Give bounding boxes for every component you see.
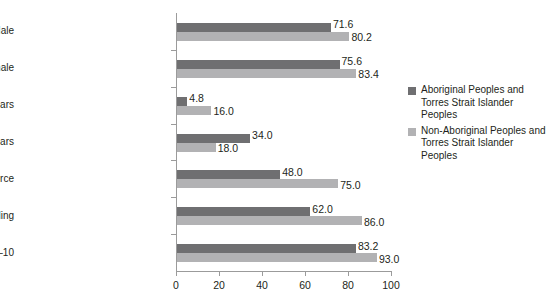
bar-value-label: 71.6 <box>333 19 353 29</box>
bar-series-1 <box>177 32 349 41</box>
x-axis-tick <box>391 271 392 276</box>
x-axis-tick-label: 60 <box>299 279 311 291</box>
x-axis-tick-label: 100 <box>382 279 400 291</box>
bar-value-label: 18.0 <box>218 143 238 153</box>
y-axis-tick <box>171 87 176 88</box>
legend-label-series-0-line-1: Aboriginal Peoples and <box>421 84 558 97</box>
x-axis-tick <box>176 271 177 276</box>
bar-value-label: 16.0 <box>213 106 233 116</box>
x-axis-tick <box>305 271 306 276</box>
y-axis-tick <box>171 124 176 125</box>
category-label: Life expectancy (years) – Female <box>0 62 14 73</box>
category-label: % school attendance Years 1–10 <box>0 247 14 258</box>
legend-label-series-0-line-3: Peoples <box>421 109 558 122</box>
bar-series-0 <box>177 244 356 253</box>
bar-value-label: 48.0 <box>282 167 302 177</box>
category-label: % aged 15–64 years in workforce <box>0 173 14 184</box>
legend-swatch-icon-series-1 <box>408 128 416 136</box>
bar-value-label: 62.0 <box>312 204 332 214</box>
bar-value-label: 86.0 <box>364 217 384 227</box>
bar-value-label: 75.0 <box>340 180 360 190</box>
category-label: % aged under 15 years <box>0 136 14 147</box>
legend-swatch-icon-series-0 <box>408 87 416 95</box>
legend-label-series-1: Non-Aboriginal Peoples and Torres Strait… <box>421 125 558 163</box>
x-axis-tick-label: 40 <box>256 279 268 291</box>
bar-series-1 <box>177 216 362 225</box>
category-label: Life expectancy (years) – Male <box>0 25 14 36</box>
bar-series-0 <box>177 207 310 216</box>
bar-series-1 <box>177 253 377 262</box>
y-axis-tick <box>171 197 176 198</box>
bar-value-label: 83.4 <box>358 69 378 79</box>
bar-value-label: 83.2 <box>358 241 378 251</box>
bar-value-label: 34.0 <box>252 130 272 140</box>
chart-legend: Aboriginal Peoples and Torres Strait Isl… <box>408 84 558 165</box>
bar-value-label: 75.6 <box>342 56 362 66</box>
y-axis-tick <box>171 160 176 161</box>
x-axis-tick-label: 80 <box>342 279 354 291</box>
chart-page: 020406080100 Life expectancy (years) – M… <box>0 0 558 300</box>
bar-series-0 <box>177 97 187 106</box>
bar-series-1 <box>177 179 338 188</box>
y-axis-tick <box>171 50 176 51</box>
x-axis-tick <box>262 271 263 276</box>
legend-label-series-0-line-2: Torres Strait Islander <box>421 97 558 110</box>
x-axis-tick <box>348 271 349 276</box>
bar-value-label: 80.2 <box>351 32 371 42</box>
x-axis-tick-label: 0 <box>173 279 179 291</box>
legend-label-series-1-line-3: Peoples <box>421 150 558 163</box>
plot-area: 020406080100 Life expectancy (years) – M… <box>0 0 400 300</box>
x-axis-line <box>176 271 392 272</box>
x-axis-tick <box>219 271 220 276</box>
legend-item-non-aboriginal: Non-Aboriginal Peoples and Torres Strait… <box>408 125 558 163</box>
bar-series-1 <box>177 143 216 152</box>
bar-series-1 <box>177 106 211 115</box>
y-axis-tick <box>171 234 176 235</box>
category-label: % aged 65+ years <box>0 99 14 110</box>
bar-value-label: 93.0 <box>379 254 399 264</box>
bar-series-0 <box>177 23 331 32</box>
category-label: % finishing Year 12 schooling <box>0 210 14 221</box>
bar-series-0 <box>177 60 340 69</box>
legend-label-series-0: Aboriginal Peoples and Torres Strait Isl… <box>421 84 558 122</box>
bar-series-0 <box>177 170 280 179</box>
bar-value-label: 4.8 <box>189 93 204 103</box>
x-axis-tick-label: 20 <box>213 279 225 291</box>
legend-item-aboriginal: Aboriginal Peoples and Torres Strait Isl… <box>408 84 558 122</box>
bar-series-1 <box>177 69 356 78</box>
legend-label-series-1-line-1: Non-Aboriginal Peoples and <box>421 125 558 138</box>
legend-label-series-1-line-2: Torres Strait Islander <box>421 137 558 150</box>
bar-series-0 <box>177 134 250 143</box>
